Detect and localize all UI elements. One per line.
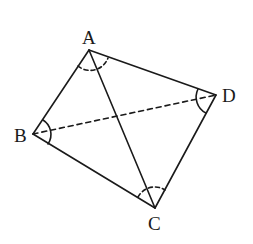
vertex-label-b: B xyxy=(14,125,27,146)
quadrilateral-figure: A B C D xyxy=(0,0,253,244)
edge-cd xyxy=(155,95,216,208)
vertex-label-d: D xyxy=(222,85,236,106)
edge-ad xyxy=(89,50,216,95)
edge-ab xyxy=(33,50,89,134)
vertex-label-a: A xyxy=(82,27,96,48)
geometry-diagram: A B C D xyxy=(0,0,253,244)
angle-mark-d xyxy=(196,89,206,113)
diagonal-bd xyxy=(33,95,216,134)
vertex-label-c: C xyxy=(148,213,161,234)
edge-bc xyxy=(33,134,155,208)
diagonal-ac xyxy=(89,50,155,208)
